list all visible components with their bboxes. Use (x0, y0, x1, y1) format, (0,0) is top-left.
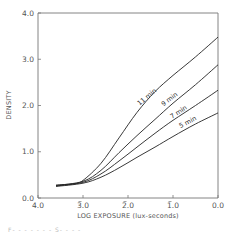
y-tick-label: 1.0 (22, 147, 34, 156)
x-tick-label: 2.0 (122, 201, 134, 210)
y-axis-title: DENSITY (5, 90, 13, 119)
curve-7-min (56, 90, 218, 186)
curves (56, 37, 218, 186)
density-exposure-chart: 0.01.02.03.04.0 4.03.02.01.00.0 11 min9 … (0, 0, 235, 235)
y-tick-label: 4.0 (22, 9, 34, 18)
curve-label: 9 min (160, 90, 179, 108)
x-tick-label: 1.0 (167, 201, 179, 210)
x-tick-label: 4.0 (32, 201, 44, 210)
x-tick-label: 0.0 (212, 201, 224, 210)
curve-label: 11 min (136, 87, 158, 108)
x-tick-label: 3.0 (77, 201, 89, 210)
cropped-caption-fragment: F- - - - - - - S- - - - (8, 226, 81, 233)
plot-frame (38, 13, 218, 198)
curve-5-min (56, 113, 218, 186)
y-tick-label: 2.0 (22, 101, 34, 110)
x-axis-ticks: 4.03.02.01.00.0 (32, 195, 224, 210)
x-axis-title: LOG EXPOSURE (lux-seconds) (77, 212, 179, 220)
y-tick-label: 3.0 (22, 55, 34, 64)
curve-11-min (56, 37, 218, 185)
